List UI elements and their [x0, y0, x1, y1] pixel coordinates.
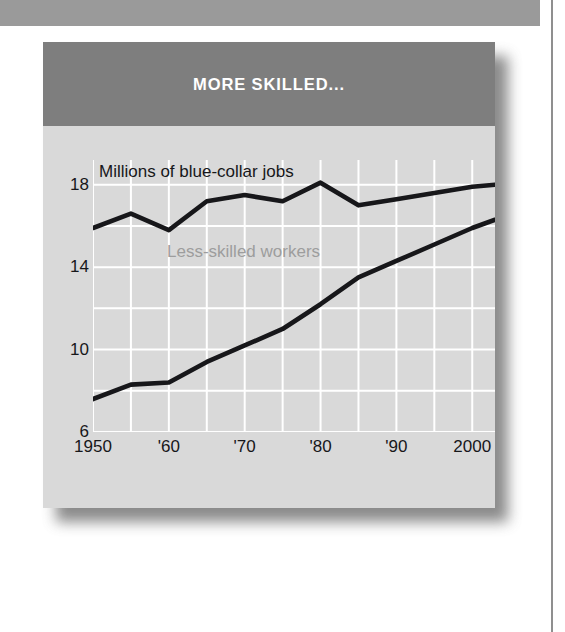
- y-axis-tick: 10: [49, 340, 89, 360]
- y-axis-tick-labels: 1814106: [43, 160, 89, 432]
- chart-figure: MORE SKILLED... 1814106 1950'60'70'80'90…: [43, 42, 495, 508]
- y-axis-tick: 18: [49, 175, 89, 195]
- chart-title: MORE SKILLED...: [193, 75, 345, 94]
- more-skilled-series-label: More-skilled workers: [171, 506, 327, 508]
- x-axis-tick-labels: 1950'60'70'80'902000: [93, 437, 495, 467]
- plot-svg: [93, 160, 495, 432]
- page-right-rule: [551, 0, 553, 632]
- x-axis-tick: '70: [234, 437, 256, 457]
- y-axis-tick: 14: [49, 257, 89, 277]
- x-axis-tick: '80: [309, 437, 331, 457]
- plot-area: [93, 160, 495, 432]
- x-axis-tick: 1950: [74, 437, 112, 457]
- plot-region: 1814106 1950'60'70'80'902000 Millions of…: [43, 126, 495, 508]
- x-axis-tick: 2000: [453, 437, 491, 457]
- x-axis-tick: '60: [158, 437, 180, 457]
- units-annotation: Millions of blue-collar jobs: [99, 162, 294, 182]
- chart-header-band: MORE SKILLED...: [43, 42, 495, 126]
- x-axis-tick: '90: [385, 437, 407, 457]
- less-skilled-series-label: Less-skilled workers: [167, 242, 320, 262]
- page-top-band: [0, 0, 540, 26]
